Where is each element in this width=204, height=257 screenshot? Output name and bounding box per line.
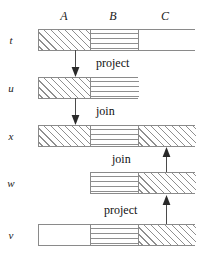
operation-label-project-1: project (96, 56, 129, 71)
bar-v-segment-c (139, 225, 196, 245)
bar-w-segment-b (91, 173, 139, 193)
bar-u-segment-a (39, 78, 91, 98)
operation-label-join-1: join (96, 104, 115, 119)
row-label-x: x (4, 130, 18, 142)
figure-canvas: A B C t project u join x join w (0, 0, 204, 257)
column-header-a: A (57, 9, 71, 24)
bar-w (90, 172, 195, 194)
bar-t-segment-a (39, 30, 91, 50)
bar-v-segment-a (39, 225, 91, 245)
bar-t (38, 29, 195, 51)
row-label-t: t (4, 34, 18, 46)
bar-v-segment-b (91, 225, 139, 245)
arrow-join-w-to-x (160, 147, 173, 172)
arrow-project-v-to-w (160, 195, 173, 224)
operation-label-join-2: join (112, 152, 131, 167)
arrow-join-u-to-x (69, 98, 82, 126)
row-label-w: w (4, 177, 18, 189)
bar-v (38, 224, 195, 246)
bar-x (38, 125, 195, 147)
bar-x-segment-a (39, 126, 91, 146)
bar-u (38, 77, 138, 99)
bar-t-segment-c (139, 30, 196, 50)
column-header-c: C (158, 9, 172, 24)
operation-label-project-2: project (104, 203, 137, 218)
column-header-b: B (106, 9, 120, 24)
bar-x-segment-c (139, 126, 196, 146)
bar-x-segment-b (91, 126, 139, 146)
bar-t-segment-b (91, 30, 139, 50)
row-label-v: v (4, 229, 18, 241)
bar-w-segment-c (139, 173, 196, 193)
bar-u-segment-b (91, 78, 139, 98)
row-label-u: u (4, 82, 18, 94)
arrow-project-t-to-u (69, 50, 82, 78)
